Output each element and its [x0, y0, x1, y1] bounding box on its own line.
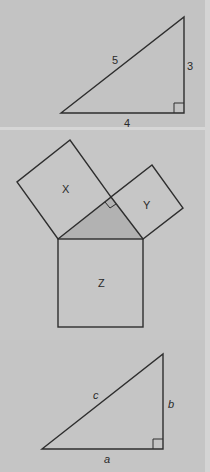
label-side-3: 3	[187, 60, 193, 72]
label-side-5: 5	[112, 54, 118, 66]
right-angle-marker	[174, 103, 184, 113]
numeric-triangle	[61, 17, 184, 113]
label-side-b: b	[168, 398, 174, 410]
shaded-triangle	[58, 197, 143, 239]
label-square-y: Y	[143, 199, 151, 211]
symbolic-triangle	[42, 354, 163, 449]
right-angle-marker	[153, 439, 163, 449]
label-side-4: 4	[124, 117, 130, 129]
label-side-a: a	[104, 453, 110, 465]
triangle-3-4-5	[61, 17, 184, 113]
diagram-svg: 5 3 4 X Y Z c b a	[0, 0, 210, 472]
label-square-x: X	[62, 183, 70, 195]
triangle-a-b-c	[42, 354, 163, 449]
squares-figure	[17, 140, 183, 327]
pythagorean-diagram: 5 3 4 X Y Z c b a	[0, 0, 210, 472]
label-square-z: Z	[98, 277, 105, 289]
label-side-c: c	[93, 389, 99, 401]
